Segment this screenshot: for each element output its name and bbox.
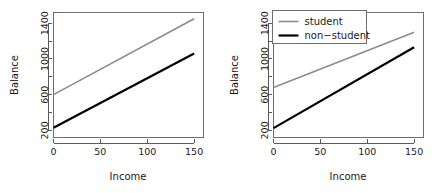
- chart-panel-left: 20060010001400 050100150 Balance Income: [0, 0, 220, 193]
- lp-x-tick-label: 150: [185, 146, 203, 157]
- series-line-non-student: [54, 54, 195, 128]
- rp-y-tick-label: 1000: [259, 47, 270, 71]
- rp-x-tick-label: 100: [358, 146, 376, 157]
- right-y-axis: 20060010001400: [259, 11, 272, 139]
- rp-y-tick-label: 1400: [259, 11, 270, 35]
- legend-label-non-student: non−student: [305, 30, 370, 41]
- right-y-axis-title: Balance: [229, 55, 240, 95]
- left-series-group: [54, 19, 195, 128]
- lp-y-tick-label: 600: [39, 86, 50, 104]
- left-y-axis-title: Balance: [9, 55, 20, 95]
- left-panel-svg: 20060010001400 050100150 Balance Income: [0, 0, 220, 193]
- right-x-axis: 050100150: [270, 139, 423, 157]
- left-x-axis-title: Income: [110, 171, 147, 182]
- lp-y-tick-label: 1400: [39, 11, 50, 35]
- lp-y-tick-label: 200: [39, 121, 50, 139]
- right-x-axis-title: Income: [330, 171, 367, 182]
- figure-panel-pair: 20060010001400 050100150 Balance Income …: [0, 0, 440, 193]
- rp-x-tick-label: 50: [314, 146, 326, 157]
- left-y-axis: 20060010001400: [39, 11, 52, 139]
- lp-x-tick-label: 100: [138, 146, 156, 157]
- rp-y-tick-label: 600: [259, 86, 270, 104]
- legend: studentnon−student: [273, 11, 370, 44]
- chart-panel-right: 20060010001400 050100150 studentnon−stud…: [220, 0, 440, 193]
- legend-label-student: student: [305, 16, 343, 27]
- lp-x-tick-label: 0: [50, 146, 56, 157]
- rp-y-tick-label: 200: [259, 121, 270, 139]
- series-line-student: [54, 19, 195, 95]
- right-panel-svg: 20060010001400 050100150 studentnon−stud…: [220, 0, 440, 193]
- lp-x-tick-label: 50: [94, 146, 106, 157]
- lp-y-tick-label: 1000: [39, 47, 50, 71]
- left-plot-frame: [54, 13, 204, 138]
- right-series-group: [274, 32, 415, 128]
- rp-x-tick-label: 150: [405, 146, 423, 157]
- left-x-axis: 050100150: [50, 139, 203, 157]
- rp-x-tick-label: 0: [270, 146, 276, 157]
